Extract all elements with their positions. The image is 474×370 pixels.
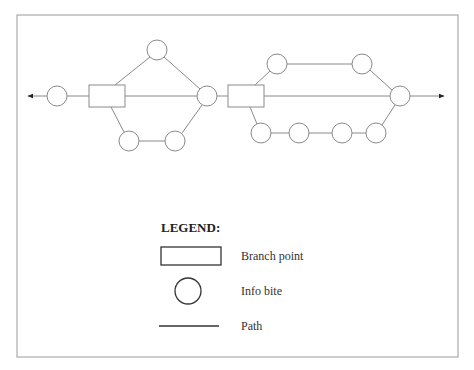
info-bite [267,54,287,74]
branch-point-2 [228,85,264,107]
info-bite [165,131,185,151]
path-segment [164,57,200,89]
path-segment [250,107,257,124]
info-bite [147,40,167,60]
branch-point-1 [89,85,125,107]
legend-label-branch-point: Branch point [241,249,304,263]
diagram-frame [17,15,458,357]
info-bite [352,54,372,74]
info-bite [47,86,67,106]
info-bite [119,131,139,151]
path-segment [111,107,124,132]
info-bite [366,123,386,143]
legend-circle-icon [175,278,201,304]
path-segment [382,105,395,125]
path-segment [182,105,202,133]
legend-label-path: Path [241,319,262,333]
path-segment [370,70,392,90]
path-segment [255,71,270,85]
legend-label-info-bite: Info bite [241,284,282,298]
info-bite [390,86,410,106]
legend-rectangle-icon [161,247,221,265]
legend: LEGEND: Branch point Info bite Path [159,220,304,333]
info-bite [197,86,217,106]
info-bite [251,123,271,143]
info-bite [332,123,352,143]
legend-title: LEGEND: [161,220,220,235]
path-segment [115,57,150,85]
diagram-canvas: LEGEND: Branch point Info bite Path [0,0,474,370]
info-bite [289,123,309,143]
